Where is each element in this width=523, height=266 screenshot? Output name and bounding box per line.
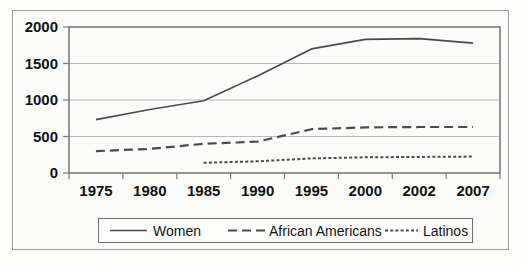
y-axis-label-2000: 2000 bbox=[25, 18, 58, 35]
y-axis-labels: 2000 1500 1000 500 0 bbox=[25, 18, 58, 181]
x-axis-label-1985: 1985 bbox=[187, 182, 220, 199]
x-axis-label-1990: 1990 bbox=[241, 182, 274, 199]
chart-legend: Women African Americans Latinos bbox=[99, 219, 473, 243]
chart-container: 2000 1500 1000 500 0 1975 1980 1985 1990… bbox=[0, 0, 523, 266]
x-axis-labels: 1975 1980 1985 1990 1995 2000 2002 2007 bbox=[79, 182, 489, 199]
x-axis-label-1995: 1995 bbox=[295, 182, 328, 199]
y-axis-label-1000: 1000 bbox=[25, 91, 58, 108]
x-axis-label-2002: 2002 bbox=[403, 182, 436, 199]
x-axis-label-1975: 1975 bbox=[79, 182, 112, 199]
data-series-group bbox=[96, 39, 473, 163]
y-tick-marks bbox=[63, 27, 69, 173]
x-axis-label-1980: 1980 bbox=[133, 182, 166, 199]
series-line-latinos bbox=[204, 157, 473, 163]
x-axis-label-2007: 2007 bbox=[456, 182, 489, 199]
series-line-african-americans bbox=[96, 127, 473, 151]
x-tick-marks bbox=[69, 173, 500, 179]
y-axis-label-1500: 1500 bbox=[25, 55, 58, 72]
legend-label-african-americans: African Americans bbox=[269, 223, 382, 239]
y-axis-label-500: 500 bbox=[33, 128, 58, 145]
series-line-women bbox=[96, 39, 473, 120]
legend-label-women: Women bbox=[153, 223, 201, 239]
x-axis-label-2000: 2000 bbox=[349, 182, 382, 199]
y-axis-label-0: 0 bbox=[50, 164, 58, 181]
gridlines bbox=[69, 64, 500, 137]
legend-label-latinos: Latinos bbox=[423, 223, 468, 239]
line-chart-plot: 2000 1500 1000 500 0 1975 1980 1985 1990… bbox=[0, 0, 523, 266]
